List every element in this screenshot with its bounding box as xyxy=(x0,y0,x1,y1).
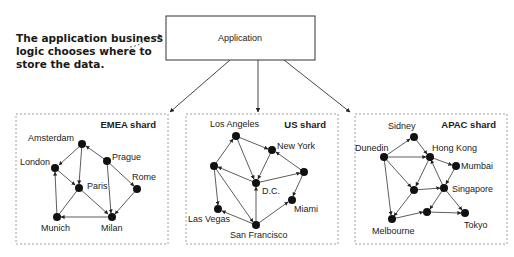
sharding-diagram: Application EMEA shard US shard APAC sha… xyxy=(0,0,514,257)
node-unnamed xyxy=(423,208,431,216)
label-prague: Prague xyxy=(112,152,141,162)
node-dunedin xyxy=(380,153,388,161)
us-shard-label: US shard xyxy=(284,119,326,130)
label-los-angeles: Los Angeles xyxy=(210,119,260,129)
label-munich: Munich xyxy=(41,223,70,233)
node-san-francisco xyxy=(252,221,260,229)
node-unnamed xyxy=(210,162,218,170)
label-san-francisco: San Francisco xyxy=(230,230,288,240)
label-hong-kong: Hong Kong xyxy=(432,143,477,153)
annotation-leader-arrow xyxy=(130,36,162,47)
node-singapore xyxy=(440,184,448,192)
node-las-vegas xyxy=(214,205,222,213)
label-singapore: Singapore xyxy=(452,184,493,194)
emea-labels: Amsterdam London Prague Paris Rome Munic… xyxy=(20,133,156,233)
node-london xyxy=(51,164,59,172)
apac-shard-label: APAC shard xyxy=(441,119,496,130)
label-dunedin: Dunedin xyxy=(355,143,389,153)
label-tokyo: Tokyo xyxy=(464,220,488,230)
label-miami: Miami xyxy=(294,204,318,214)
node-rome xyxy=(133,185,141,193)
label-amsterdam: Amsterdam xyxy=(28,133,74,143)
application-box: Application xyxy=(166,16,315,60)
node-mumbai xyxy=(452,162,460,170)
node-hong-kong xyxy=(426,153,434,161)
label-london: London xyxy=(20,157,50,167)
label-dc: D.C. xyxy=(262,186,280,196)
label-mumbai: Mumbai xyxy=(461,161,493,171)
node-dc xyxy=(252,179,260,187)
node-sidney xyxy=(410,133,418,141)
node-paris xyxy=(75,184,83,192)
arrow-to-apac xyxy=(284,60,350,112)
us-shard-box xyxy=(186,114,338,244)
node-unnamed xyxy=(300,168,308,176)
label-melbourne: Melbourne xyxy=(372,226,415,236)
node-munich xyxy=(53,213,61,221)
node-milan xyxy=(108,213,116,221)
node-prague xyxy=(103,157,111,165)
node-amsterdam xyxy=(78,140,86,148)
label-paris: Paris xyxy=(87,181,108,191)
node-unnamed xyxy=(410,186,418,194)
node-miami xyxy=(288,196,296,204)
emea-shard-label: EMEA shard xyxy=(100,119,156,130)
apac-labels: Sidney Dunedin Hong Kong Mumbai Singapor… xyxy=(355,121,493,236)
application-label: Application xyxy=(218,33,262,43)
label-new-york: New York xyxy=(277,141,316,151)
node-new-york xyxy=(268,146,276,154)
node-melbourne xyxy=(388,215,396,223)
node-los-angeles xyxy=(232,132,240,140)
label-rome: Rome xyxy=(132,172,156,182)
label-milan: Milan xyxy=(101,223,123,233)
label-las-vegas: Las Vegas xyxy=(188,214,231,224)
node-tokyo xyxy=(461,209,469,217)
label-sidney: Sidney xyxy=(388,121,416,131)
arrow-to-emea xyxy=(170,60,230,112)
